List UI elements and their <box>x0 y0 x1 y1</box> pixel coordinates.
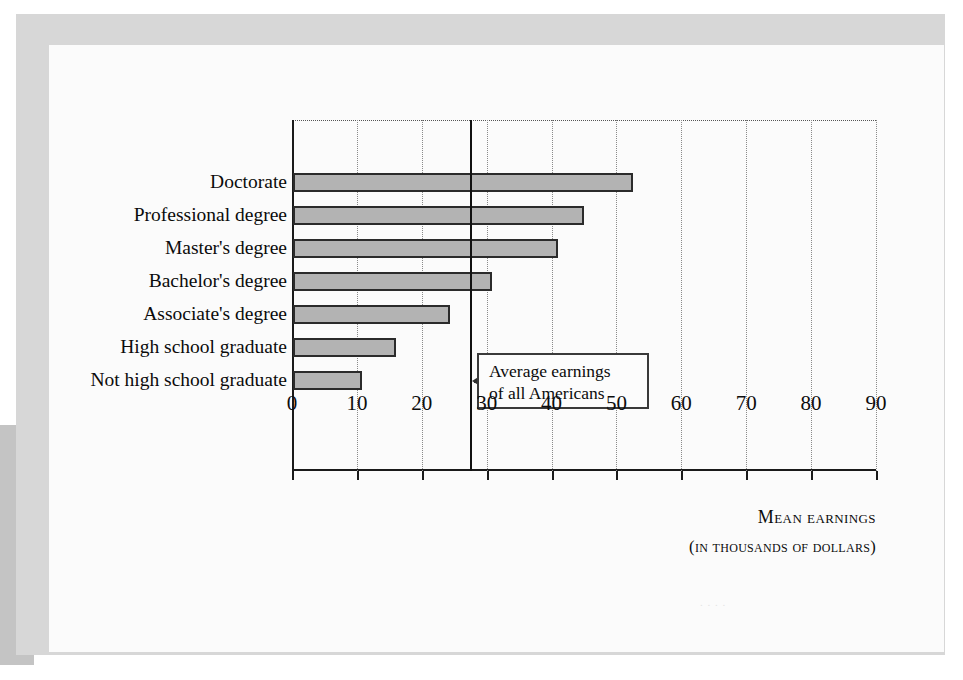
scanned-page: . . . . DoctorateProfessional degreeMast… <box>0 0 963 680</box>
category-label: High school graduate <box>120 336 287 358</box>
bar <box>293 272 492 291</box>
callout-line-1: Average earnings <box>489 360 639 382</box>
x-axis-subtitle: (in thousands of dollars) <box>689 537 876 557</box>
gridline-80 <box>811 120 812 471</box>
x-tick-label-80: 80 <box>801 391 822 416</box>
plot-area <box>292 120 876 471</box>
x-tick-label-30: 30 <box>476 391 497 416</box>
x-tick-30 <box>487 471 489 480</box>
x-tick-50 <box>616 471 618 480</box>
x-tick-label-20: 20 <box>411 391 432 416</box>
bar <box>293 305 450 324</box>
bar <box>293 371 362 390</box>
gridline-60 <box>681 120 682 471</box>
x-axis-line <box>292 469 876 471</box>
bar-chart: DoctorateProfessional degreeMaster's deg… <box>33 31 928 638</box>
bar <box>293 338 396 357</box>
x-tick-label-90: 90 <box>866 391 887 416</box>
x-tick-label-0: 0 <box>287 391 298 416</box>
category-label: Master's degree <box>165 237 287 259</box>
x-tick-40 <box>552 471 554 480</box>
x-tick-label-50: 50 <box>606 391 627 416</box>
plot-top-border <box>292 120 876 121</box>
gridline-70 <box>746 120 747 471</box>
x-tick-20 <box>422 471 424 480</box>
x-tick-0 <box>292 471 294 480</box>
x-tick-90 <box>876 471 878 480</box>
category-label: Not high school graduate <box>90 369 287 391</box>
x-tick-label-40: 40 <box>541 391 562 416</box>
x-tick-10 <box>357 471 359 480</box>
x-tick-70 <box>746 471 748 480</box>
x-axis-title: Mean earnings <box>758 507 876 528</box>
category-axis-labels: DoctorateProfessional degreeMaster's deg… <box>33 120 287 471</box>
gridline-90 <box>876 120 877 471</box>
category-label: Bachelor's degree <box>149 270 287 292</box>
bar <box>293 239 558 258</box>
average-earnings-reference-line <box>470 120 472 471</box>
x-tick-label-60: 60 <box>671 391 692 416</box>
category-label: Professional degree <box>134 204 287 226</box>
bar <box>293 206 584 225</box>
x-tick-80 <box>811 471 813 480</box>
x-tick-label-70: 70 <box>736 391 757 416</box>
x-tick-60 <box>681 471 683 480</box>
category-label: Doctorate <box>210 171 287 193</box>
category-label: Associate's degree <box>143 303 287 325</box>
x-tick-label-10: 10 <box>346 391 367 416</box>
bar <box>293 173 633 192</box>
